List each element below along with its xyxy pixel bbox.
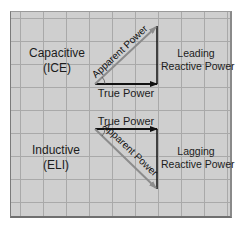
inductive-label-line2: (ELI) [20, 158, 92, 173]
capacitive-label: Capacitive (ICE) [22, 46, 92, 76]
leading-label-line2: Reactive Power [161, 60, 231, 73]
inductive-label: Inductive (ELI) [20, 143, 92, 173]
capacitive-triangle [95, 26, 157, 84]
inductive-label-line1: Inductive [20, 143, 92, 158]
lagging-reactive-label: Lagging Reactive Power [161, 145, 231, 171]
apparent-power-arrow-top [95, 27, 156, 84]
lagging-label-line1: Lagging [161, 145, 231, 158]
leading-label-line1: Leading [161, 47, 231, 60]
true-power-label-top: True Power [96, 87, 156, 100]
leading-reactive-label: Leading Reactive Power [161, 47, 231, 73]
capacitive-label-line2: (ICE) [22, 61, 92, 76]
capacitive-label-line1: Capacitive [22, 46, 92, 61]
lagging-label-line2: Reactive Power [161, 158, 231, 171]
true-power-label-bottom: True Power [96, 115, 156, 128]
apparent-power-label-top: Apparent Power [90, 23, 150, 80]
phase-angle-arc-top [102, 77, 105, 84]
